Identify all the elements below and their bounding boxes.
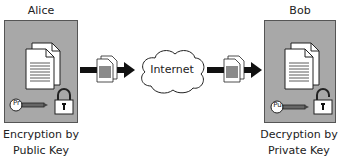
sender-caption: Encryption by Public Key [0, 127, 82, 159]
sender-name: Alice [4, 4, 78, 17]
internet-cloud: Internet [137, 46, 207, 96]
internet-label: Internet [137, 63, 207, 76]
document-stack-icon [283, 41, 323, 91]
document-stack-icon [24, 41, 64, 91]
receiver-name: Bob [263, 4, 337, 17]
encrypted-document-icon [223, 55, 245, 83]
encrypted-document-icon [96, 55, 118, 83]
padlock-locked-icon [54, 87, 74, 115]
receiver-panel: Pu [264, 20, 336, 123]
private-key-icon: Pu [270, 100, 310, 114]
public-key-icon: Pr [9, 98, 49, 112]
sender-panel: Pr [4, 20, 78, 123]
padlock-unlocked-icon [313, 87, 335, 115]
receiver-caption: Decryption by Private Key [258, 127, 338, 159]
